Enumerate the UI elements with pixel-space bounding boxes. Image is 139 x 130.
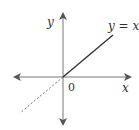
- y-axis-label: y: [46, 15, 54, 29]
- line-y-equals-x: [63, 35, 113, 77]
- dashed-extension: [20, 77, 63, 113]
- origin-label: 0: [68, 81, 75, 94]
- line-label: y = x: [107, 19, 139, 33]
- graph-y-equals-x: y x 0 y = x: [0, 0, 139, 130]
- x-axis-label: x: [122, 81, 129, 95]
